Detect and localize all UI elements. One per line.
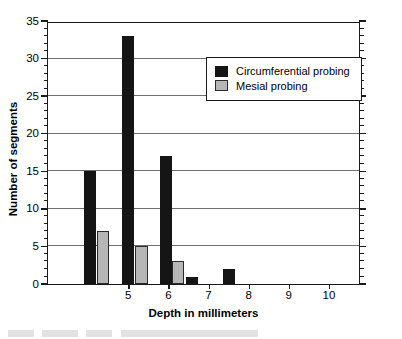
legend-item: Mesial probing (215, 80, 350, 93)
legend-item: Circumferential probing (215, 65, 350, 78)
y-axis-minor-tick (44, 88, 49, 89)
legend-swatch-circumferential-probing (215, 66, 228, 77)
y-axis-minor-tick (359, 163, 364, 164)
y-axis-major-tick (41, 208, 48, 210)
y-axis-tick-label: 25 (26, 90, 39, 102)
y-axis-tick-label: 5 (33, 241, 39, 253)
y-axis-minor-tick (44, 163, 49, 164)
y-axis-minor-tick (359, 28, 364, 29)
y-axis-major-tick (41, 246, 48, 248)
x-axis-tick-label: 6 (165, 290, 171, 302)
y-axis-minor-tick (44, 148, 49, 149)
y-axis-minor-tick (359, 148, 364, 149)
y-axis-tick-label: 15 (26, 166, 39, 178)
y-axis-minor-tick (44, 125, 49, 126)
bar-circumferential-1 (186, 277, 198, 285)
y-axis-major-tick (41, 95, 48, 97)
y-axis-major-tick (359, 171, 366, 173)
y-axis-minor-tick (44, 253, 49, 254)
chart-legend: Circumferential probing Mesial probing (206, 57, 362, 101)
bar-mesial-5 (135, 246, 147, 284)
y-axis-tick-label: 35 (26, 15, 39, 27)
legend-label: Mesial probing (236, 80, 308, 93)
y-axis-minor-tick (44, 276, 49, 277)
y-axis-minor-tick (359, 103, 364, 104)
y-axis-tick-label: 20 (26, 128, 39, 140)
legend-label: Circumferential probing (236, 65, 350, 78)
y-axis-minor-tick (44, 200, 49, 201)
y-axis-minor-tick (359, 178, 364, 179)
y-axis-minor-tick (359, 276, 364, 277)
y-axis-minor-tick (44, 238, 49, 239)
y-axis-minor-tick (44, 140, 49, 141)
y-axis-tick-label: 10 (26, 203, 39, 215)
y-axis-minor-tick (359, 215, 364, 216)
y-axis-minor-tick (44, 215, 49, 216)
legend-swatch-mesial-probing (215, 80, 228, 91)
y-axis-minor-tick (44, 260, 49, 261)
y-axis-major-tick (359, 20, 366, 22)
y-axis-major-tick (41, 58, 48, 60)
y-axis-minor-tick (359, 140, 364, 141)
y-axis-major-tick (359, 283, 366, 285)
y-axis-minor-tick (359, 268, 364, 269)
y-axis-minor-tick (359, 230, 364, 231)
y-axis-minor-tick (359, 118, 364, 119)
y-axis-minor-tick (359, 110, 364, 111)
y-axis-minor-tick (44, 178, 49, 179)
y-axis-major-tick (41, 133, 48, 135)
y-axis-tick-label: 30 (26, 53, 39, 65)
y-axis-tick-label: 0 (33, 278, 39, 290)
y-axis-minor-tick (44, 103, 49, 104)
bar-circumferential-33 (122, 36, 134, 284)
y-axis-minor-tick (44, 223, 49, 224)
y-axis-minor-tick (44, 80, 49, 81)
bar-mesial-7 (97, 231, 109, 284)
y-axis-minor-tick (44, 73, 49, 74)
gridline (48, 133, 359, 134)
y-axis-minor-tick (359, 260, 364, 261)
y-axis-minor-tick (359, 223, 364, 224)
x-axis-tick-label: 7 (205, 290, 211, 302)
y-axis-minor-tick (359, 125, 364, 126)
bar-circumferential-17 (160, 156, 172, 284)
y-axis-major-tick (359, 208, 366, 210)
y-axis-minor-tick (44, 28, 49, 29)
y-axis-major-tick (359, 133, 366, 135)
bar-mesial-3 (172, 261, 184, 284)
x-axis-tick-label: 10 (322, 290, 335, 302)
y-axis-major-tick (41, 20, 48, 22)
y-axis-minor-tick (359, 193, 364, 194)
y-axis-minor-tick (44, 230, 49, 231)
y-axis-minor-tick (44, 35, 49, 36)
y-axis-minor-tick (44, 185, 49, 186)
x-axis-title: Depth in millimeters (47, 307, 360, 319)
y-axis-minor-tick (44, 155, 49, 156)
y-axis-minor-tick (44, 193, 49, 194)
y-axis-minor-tick (44, 65, 49, 66)
y-axis-minor-tick (359, 238, 364, 239)
y-axis-minor-tick (44, 50, 49, 51)
y-axis-minor-tick (359, 200, 364, 201)
x-axis-tick-label: 8 (245, 290, 251, 302)
y-axis-minor-tick (359, 43, 364, 44)
y-axis-minor-tick (44, 43, 49, 44)
y-axis-major-tick (41, 171, 48, 173)
x-axis-tick-label: 5 (125, 290, 131, 302)
bar-chart-figure: 05101520253035 5678910 Number of segment… (0, 0, 402, 339)
y-axis-major-tick (41, 283, 48, 285)
y-axis-minor-tick (44, 268, 49, 269)
y-axis-major-tick (359, 246, 366, 248)
y-axis-title: Number of segments (7, 84, 19, 234)
y-axis-minor-tick (359, 50, 364, 51)
y-axis-minor-tick (359, 185, 364, 186)
y-axis-minor-tick (359, 253, 364, 254)
bar-circumferential-15 (84, 171, 96, 284)
x-axis-tick-label: 9 (286, 290, 292, 302)
y-axis-minor-tick (359, 35, 364, 36)
bar-circumferential-2 (223, 269, 235, 284)
y-axis-minor-tick (359, 155, 364, 156)
y-axis-minor-tick (44, 118, 49, 119)
page-caption-fragment (8, 330, 258, 337)
y-axis-minor-tick (44, 110, 49, 111)
